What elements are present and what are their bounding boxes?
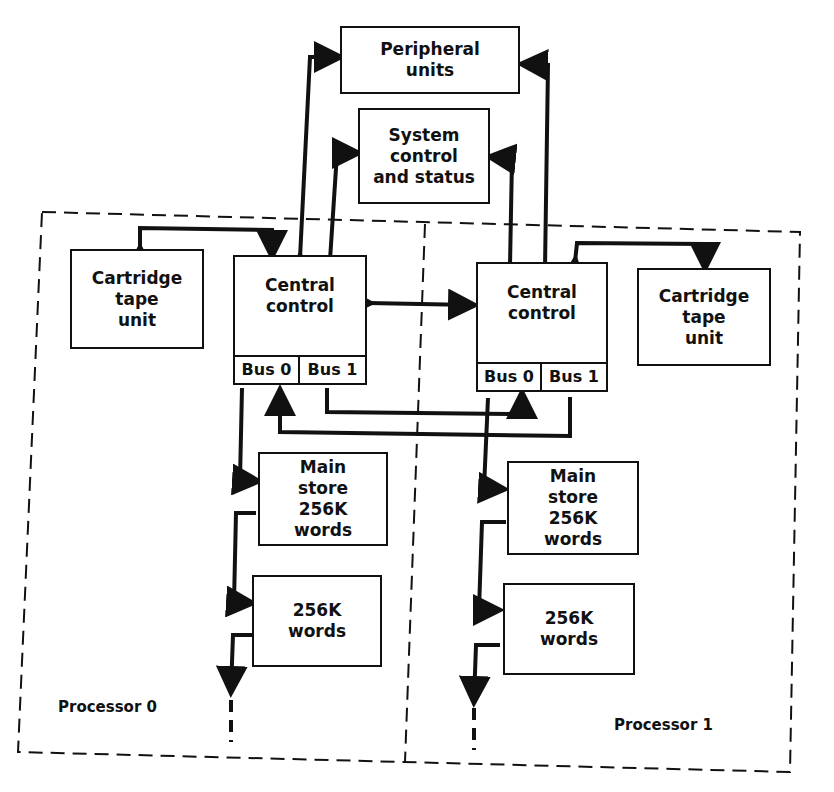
p1-main-store-label: Main store 256K words [544,466,602,550]
system-control-label: System control and status [373,125,475,188]
p1-cartridge-label: Cartridge tape unit [659,286,750,349]
p0-extra-store-block: 256K words [252,575,382,667]
p0-cartridge-label: Cartridge tape unit [92,268,183,331]
p1-central-control-block: Central control Bus 0 Bus 1 [476,262,608,392]
p0-bus-1: Bus 1 [300,355,365,383]
p1-central-control-label: Central control [478,282,606,324]
peripheral-units-label: Peripheral units [380,39,480,81]
p1-cartridge-tape-block: Cartridge tape unit [637,268,771,366]
p1-extra-store-block: 256K words [503,583,635,675]
p1-main-store-block: Main store 256K words [507,461,639,555]
p0-main-store-block: Main store 256K words [258,452,388,546]
p0-extra-store-label: 256K words [288,600,346,642]
processor-0-label: Processor 0 [58,698,157,716]
p1-extra-store-label: 256K words [540,608,598,650]
p1-bus-0: Bus 0 [478,362,542,390]
p1-bus-1: Bus 1 [542,362,606,390]
p0-cartridge-tape-block: Cartridge tape unit [70,249,204,349]
p0-bus-0: Bus 0 [235,355,300,383]
p0-central-control-label: Central control [235,275,365,317]
processor-1-label: Processor 1 [614,716,713,734]
peripheral-units-block: Peripheral units [340,26,520,94]
p0-main-store-label: Main store 256K words [294,457,352,541]
p0-central-control-block: Central control Bus 0 Bus 1 [233,255,367,385]
system-control-block: System control and status [358,108,490,204]
